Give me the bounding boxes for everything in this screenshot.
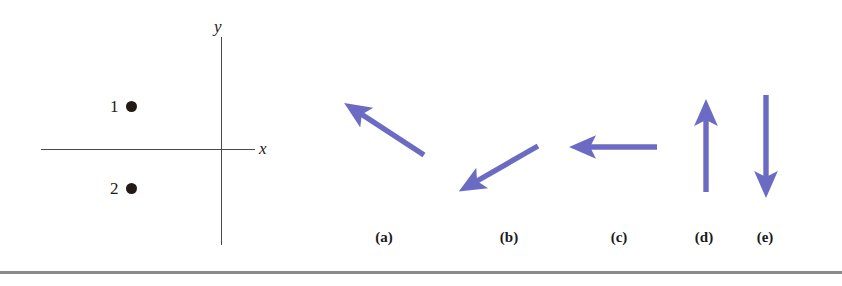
option-label-d: (d) bbox=[695, 230, 713, 245]
option-label-c: (c) bbox=[611, 230, 628, 245]
vector-arrow-a bbox=[355, 110, 424, 155]
bottom-divider bbox=[0, 271, 842, 274]
option-label-b: (b) bbox=[500, 230, 518, 245]
option-label-a: (a) bbox=[375, 230, 393, 245]
option-label-e: (e) bbox=[757, 230, 774, 245]
vector-arrows-layer bbox=[0, 0, 842, 286]
figure-root: y x 1 2 (a) (b) (c) (d) (e) bbox=[0, 0, 842, 286]
vector-arrow-b bbox=[470, 146, 538, 185]
